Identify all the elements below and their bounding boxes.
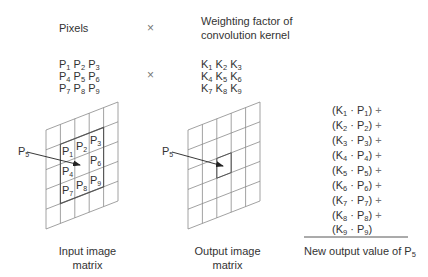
result-label-sub: 5 (412, 250, 416, 259)
input-cell-p1: P1 (62, 145, 73, 157)
term-1-plus: + (375, 104, 381, 116)
term-7-plus: + (375, 194, 381, 206)
equation-term-8: (K8 · P8) + (332, 209, 382, 222)
term-1-k-sub: 1 (343, 109, 347, 118)
input-cell-p8-sub: 8 (83, 185, 87, 192)
equation-term-3: (K3 · P3) + (332, 134, 382, 147)
term-8-k-sub: 8 (343, 214, 347, 223)
output-pointer-label-sub: 5 (169, 151, 173, 158)
equation-term-1: (K1 · P1) + (332, 104, 382, 117)
input-caption-line1: Input image (40, 245, 135, 258)
input-cell-p9-sub: 9 (97, 180, 101, 187)
input-cell-p6: P6 (90, 154, 101, 166)
term-8-p-sub: 8 (364, 214, 368, 223)
input-cell-p6-sub: 6 (97, 160, 101, 167)
input-caption-line2: matrix (40, 259, 135, 272)
input-cell-p7-sub: 7 (69, 190, 73, 197)
output-center-cell (217, 153, 231, 178)
term-8-plus: + (375, 209, 381, 221)
input-pointer-label-sub: 5 (25, 151, 29, 158)
result-label-text: New output value of P (304, 245, 412, 257)
equation-term-5: (K5 · P5) + (332, 164, 382, 177)
equation-term-4: (K4 · P4) + (332, 149, 382, 162)
input-cell-p9: P9 (90, 174, 101, 186)
input-cell-p1-sub: 1 (69, 151, 73, 158)
term-6-p-sub: 6 (364, 184, 368, 193)
equation-term-2: (K2 · P2) + (332, 119, 382, 132)
term-6-plus: + (375, 179, 381, 191)
term-4-k-sub: 4 (343, 154, 347, 163)
term-7-p-sub: 7 (364, 199, 368, 208)
term-2-plus: + (375, 119, 381, 131)
input-cell-p2-sub: 2 (83, 146, 87, 153)
input-cell-p3: P3 (90, 134, 101, 146)
term-3-k-sub: 3 (343, 139, 347, 148)
term-6-k-sub: 6 (343, 184, 347, 193)
term-9-k-sub: 9 (343, 228, 347, 237)
input-image-grid (46, 102, 118, 229)
output-pointer-label: P5 (162, 145, 173, 157)
output-caption-line1: Output image (180, 245, 275, 258)
result-label: New output value of P5 (304, 245, 416, 258)
input-cell-p3-sub: 3 (97, 140, 101, 147)
input-cell-p7: P7 (62, 184, 73, 196)
output-caption-line2: matrix (180, 259, 275, 272)
input-cell-p2: P2 (76, 140, 87, 152)
input-pointer-label: P5 (18, 145, 29, 157)
equation-term-9: (K9 · P9) (332, 223, 372, 236)
input-cell-p8: P8 (76, 179, 87, 191)
term-5-p-sub: 5 (364, 169, 368, 178)
term-3-plus: + (375, 134, 381, 146)
term-5-plus: + (375, 164, 381, 176)
term-4-plus: + (375, 149, 381, 161)
input-cell-p4: P4 (62, 165, 73, 177)
term-9-p-sub: 9 (364, 228, 368, 237)
input-cell-p4-sub: 4 (69, 171, 73, 178)
equation-term-6: (K6 · P6) + (332, 179, 382, 192)
output-image-grid (188, 102, 260, 229)
term-7-k-sub: 7 (343, 199, 347, 208)
term-2-k-sub: 2 (343, 124, 347, 133)
term-4-p-sub: 4 (364, 154, 368, 163)
equation-term-7: (K7 · P7) + (332, 194, 382, 207)
term-1-p-sub: 1 (364, 109, 368, 118)
term-3-p-sub: 3 (364, 139, 368, 148)
term-5-k-sub: 5 (343, 169, 347, 178)
term-2-p-sub: 2 (364, 124, 368, 133)
